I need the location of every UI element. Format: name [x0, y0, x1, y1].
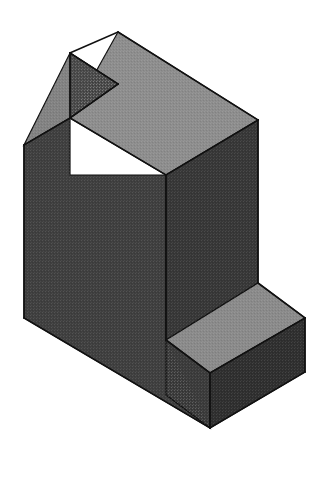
- surface-texture-overlay: [24, 32, 305, 428]
- figure-canvas: Isometric pictorial of a notched L-shape…: [0, 0, 325, 504]
- isometric-block-figure: [0, 0, 325, 504]
